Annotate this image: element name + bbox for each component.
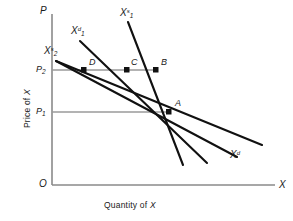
point-marker-d [81, 67, 87, 73]
curve-label-x2s: Xs2 [44, 46, 57, 58]
economics-supply-demand-figure: P X O P2 P1 Xs1 Xd1 Xs2 Xd D C B A Quant… [0, 0, 293, 221]
curve-label-x1s-base: X [120, 7, 127, 18]
curve-label-xd-base: X [230, 149, 237, 160]
curve-label-x1s-sub: 1 [130, 12, 134, 19]
curve-label-xd: Xd [230, 150, 240, 160]
x-axis-caption-var: X [150, 200, 156, 210]
x-axis-letter: X [279, 180, 286, 190]
point-label-c: C [131, 58, 138, 67]
y-axis-letter: P [40, 6, 47, 16]
point-marker-b [153, 67, 159, 73]
curve-label-x2s-base: X [44, 45, 51, 56]
curve-label-x2s-sub: 2 [54, 50, 58, 57]
curve-x1d [80, 41, 207, 163]
tick-label-p2-sub: 2 [42, 68, 46, 75]
curve-label-x1d: Xd1 [71, 26, 85, 38]
y-axis-caption-var: X [22, 89, 32, 95]
point-label-d: D [89, 58, 96, 67]
x-axis-caption: Quantity of X [104, 200, 156, 210]
origin-label: O [39, 179, 47, 189]
curve-label-x1s: Xs1 [120, 8, 133, 20]
tick-label-p1-sub: 1 [42, 110, 46, 117]
curve-xd [56, 61, 237, 157]
curve-label-xd-sup: d [237, 150, 240, 156]
point-label-b: B [161, 58, 167, 67]
point-label-a: A [175, 99, 181, 108]
curve-label-x1d-sub: 1 [81, 30, 85, 37]
point-marker-c [124, 67, 130, 73]
curve-label-x1d-base: X [71, 25, 78, 36]
tick-label-p2: P2 [36, 65, 46, 75]
y-axis-caption: Price of X [22, 89, 32, 128]
tick-label-p1: P1 [36, 107, 46, 117]
point-marker-a [166, 109, 172, 115]
